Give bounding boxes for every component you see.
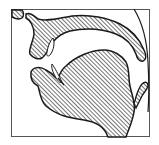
vocal-tract-diagram	[0, 0, 159, 145]
upper-lip	[12, 10, 24, 19]
epiglottis	[134, 82, 148, 108]
diagram-canvas	[0, 0, 159, 145]
tongue-lower-jaw	[31, 50, 135, 137]
